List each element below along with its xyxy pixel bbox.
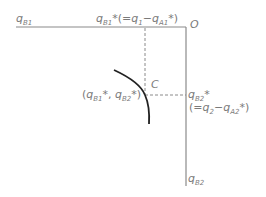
axis-label-qB2: qB2 [188, 172, 204, 187]
origin-label: O [190, 18, 199, 31]
axis-label-qB1: qB1 [16, 12, 32, 27]
label-point-coordinates: (qB1*, qB2*) [82, 88, 141, 103]
point-c-label: C [151, 78, 159, 91]
label-qB1-star-equation: qB1*(=q1−qA1*) [96, 12, 178, 27]
label-qB2-star-equation: (=q2−qA2*) [189, 101, 249, 116]
